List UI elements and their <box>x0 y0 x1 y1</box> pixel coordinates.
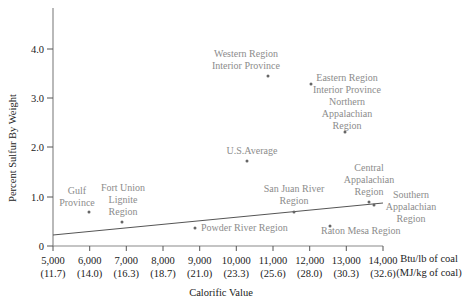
x-axis-title: Calorific Value <box>189 287 253 298</box>
label-northern-appalachian: Appalachian <box>322 108 373 119</box>
point-fort-union <box>121 221 124 224</box>
x-tick-label: 11,000 <box>259 255 288 266</box>
y-axis-title: Percent Sulfur By Weight <box>7 94 18 202</box>
x-tick-label: 7,000 <box>114 255 138 266</box>
point-western-interior <box>267 75 270 78</box>
x-tick-sublabel: (32.6) <box>370 268 396 280</box>
point-powder-river <box>194 227 197 230</box>
x-tick-sublabel: (16.3) <box>114 268 140 280</box>
x-tick-label: 9,000 <box>188 255 212 266</box>
x-tick-sublabel: (28.0) <box>297 268 323 280</box>
y-tick-label: 2.0 <box>31 142 44 153</box>
label-fort-union: Fort Union <box>101 182 145 193</box>
label-eastern-interior: Interior Province <box>313 84 382 95</box>
label-central-appalachian: Central <box>354 162 384 173</box>
label-gulf: Province <box>59 197 95 208</box>
point-san-juan <box>293 211 296 214</box>
point-gulf <box>88 211 91 214</box>
x-tick-label: 13,000 <box>332 255 361 266</box>
x-tick-sublabel: (30.3) <box>334 268 360 280</box>
x-tick-label: 12,000 <box>295 255 324 266</box>
x-unit-btu: Btu/lb of coal <box>400 253 458 264</box>
point-southern-appalachian <box>373 204 376 207</box>
x-tick-sublabel: (14.0) <box>77 268 103 280</box>
label-western-interior: Interior Province <box>212 60 281 71</box>
x-tick-label: 14,000 <box>369 255 398 266</box>
x-tick-label: 5,000 <box>41 255 65 266</box>
y-ticks: 0 1.0 2.0 3.0 4.0 <box>31 44 53 252</box>
y-tick-label: 3.0 <box>31 93 44 104</box>
label-san-juan: San Juan River <box>264 183 325 194</box>
y-tick-label: 0 <box>39 241 44 252</box>
x-tick-sublabel: (18.7) <box>150 268 176 280</box>
x-tick-sublabel: (21.0) <box>187 268 213 280</box>
label-san-juan: Region <box>280 195 309 206</box>
x-tick-sublabel: (23.3) <box>224 268 250 280</box>
label-southern-appalachian: Region <box>397 213 426 224</box>
x-tick-label: 10,000 <box>222 255 251 266</box>
label-southern-appalachian: Appalachian <box>386 201 437 212</box>
label-fort-union: Lignite <box>109 194 138 205</box>
label-central-appalachian: Appalachian <box>344 174 395 185</box>
label-us-average: U.S.Average <box>227 145 278 156</box>
label-western-interior: Western Region <box>214 48 278 59</box>
x-tick-sublabel: (11.7) <box>41 268 66 280</box>
label-raton-mesa: Raton Mesa Region <box>321 225 400 236</box>
label-northern-appalachian: Region <box>333 120 362 131</box>
point-labels: Gulf Province Fort Union Lignite Region … <box>59 48 436 236</box>
x-unit-mj: (MJ/kg of coal) <box>396 267 462 279</box>
x-tick-label: 8,000 <box>151 255 175 266</box>
scatter-chart: 0 1.0 2.0 3.0 4.0 5,000 6,000 7,000 8,00… <box>0 0 473 304</box>
x-tick-label: 6,000 <box>78 255 102 266</box>
label-northern-appalachian: Northern <box>329 96 365 107</box>
y-tick-label: 4.0 <box>31 44 44 55</box>
label-powder-river: Powder River Region <box>201 222 288 233</box>
label-eastern-interior: Eastern Region <box>316 72 377 83</box>
y-tick-label: 1.0 <box>31 192 44 203</box>
label-fort-union: Region <box>109 206 138 217</box>
x-tick-sublabel: (25.6) <box>260 268 286 280</box>
point-central-appalachian <box>368 201 371 204</box>
label-gulf: Gulf <box>68 185 87 196</box>
point-us-average <box>246 160 249 163</box>
label-southern-appalachian: Southern <box>393 189 429 200</box>
label-central-appalachian: Region <box>355 186 384 197</box>
x-ticks: 5,000 6,000 7,000 8,000 9,000 10,000 11,… <box>41 246 398 280</box>
